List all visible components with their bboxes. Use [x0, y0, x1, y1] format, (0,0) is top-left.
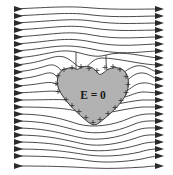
field-line [14, 13, 159, 16]
field-line [14, 26, 159, 30]
field-arrow-icon [155, 48, 164, 54]
field-arrow-icon [155, 41, 164, 47]
field-line [14, 121, 159, 133]
field-line [14, 7, 159, 9]
field-arrow-icon [155, 104, 164, 110]
field-arrow-icon [155, 34, 164, 40]
field-arrow-icon [155, 146, 164, 152]
field-arrow-icon [14, 125, 23, 131]
field-arrow-icon [14, 34, 23, 40]
e-field-zero-label: E = 0 [80, 89, 106, 101]
field-arrow-icon [14, 41, 23, 47]
field-line [14, 166, 159, 168]
field-arrow-icon [14, 139, 23, 145]
field-arrow-icon [155, 97, 164, 103]
field-line [126, 83, 159, 91]
field-arrow-icon [14, 97, 23, 103]
field-arrow-icon [14, 90, 23, 96]
field-arrow-icon [155, 118, 164, 124]
field-arrow-icon [14, 104, 23, 110]
field-arrow-icon [14, 163, 23, 169]
field-arrow-icon [14, 153, 23, 159]
field-lines-figure: E = 0 [0, 0, 173, 175]
field-arrow-icon [155, 6, 164, 12]
field-line [14, 156, 159, 162]
field-arrow-icon [155, 163, 164, 169]
field-arrow-icon [14, 69, 23, 75]
figure-canvas: E = 0 [0, 0, 173, 175]
field-arrow-icon [14, 27, 23, 33]
right-arrowheads-group [155, 6, 164, 169]
field-arrow-icon [14, 55, 23, 61]
field-arrow-icon [155, 20, 164, 26]
left-arrowheads-group [14, 6, 23, 169]
field-arrow-icon [14, 132, 23, 138]
field-arrow-icon [155, 69, 164, 75]
field-arrow-icon [14, 146, 23, 152]
field-arrow-icon [155, 125, 164, 131]
field-arrow-icon [14, 6, 23, 12]
field-line [14, 135, 159, 145]
field-arrow-icon [155, 153, 164, 159]
field-arrow-icon [155, 62, 164, 68]
field-arrow-icon [155, 76, 164, 82]
field-arrow-icon [14, 118, 23, 124]
field-line [14, 73, 58, 83]
field-arrow-icon [155, 139, 164, 145]
field-arrow-icon [155, 111, 164, 117]
field-line [14, 39, 159, 45]
field-arrow-icon [14, 83, 23, 89]
field-arrow-icon [14, 20, 23, 26]
field-arrow-icon [155, 27, 164, 33]
field-arrow-icon [14, 76, 23, 82]
field-arrow-icon [155, 13, 164, 19]
field-line [14, 33, 159, 38]
field-line [14, 20, 159, 24]
field-arrow-icon [14, 13, 23, 19]
field-arrow-icon [14, 48, 23, 54]
field-arrow-icon [14, 111, 23, 117]
field-arrow-icon [155, 90, 164, 96]
field-line [14, 46, 159, 53]
field-arrow-icon [155, 55, 164, 61]
field-arrow-icon [155, 132, 164, 138]
field-arrow-icon [155, 83, 164, 89]
field-line [14, 82, 60, 91]
field-line [124, 92, 159, 97]
field-arrow-icon [14, 62, 23, 68]
